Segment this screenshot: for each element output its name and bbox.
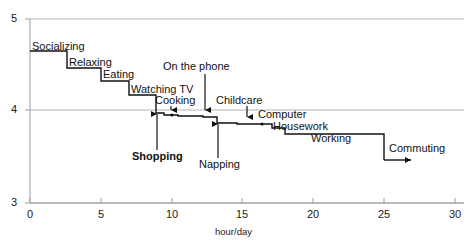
step-label-shopping: Shopping <box>132 150 183 162</box>
step-label-commuting: Commuting <box>389 142 445 154</box>
step-label-socializing: Socializing <box>32 40 85 52</box>
axes <box>25 19 464 203</box>
step-label-napping: Napping <box>199 158 240 170</box>
step-label-on-the-phone: On the phone <box>163 60 230 72</box>
x-tick-20: 20 <box>307 208 319 220</box>
y-tick-3: 3 <box>11 196 17 208</box>
x-tick-30: 30 <box>449 208 461 220</box>
step-label-housework: Housework <box>273 120 328 132</box>
y-tick-4: 4 <box>11 103 17 115</box>
x-tick-5: 5 <box>98 208 104 220</box>
step-label-cooking: Cooking <box>155 94 195 106</box>
x-tick-10: 10 <box>166 208 178 220</box>
step-label-eating: Eating <box>103 68 134 80</box>
x-axis-title: hour/day <box>215 226 252 237</box>
step-label-computer: Computer <box>258 108 306 120</box>
step-label-relaxing: Relaxing <box>69 56 112 68</box>
step-label-childcare: Childcare <box>216 94 262 106</box>
step-chart <box>0 0 476 243</box>
x-tick-25: 25 <box>378 208 390 220</box>
x-tick-15: 15 <box>236 208 248 220</box>
y-tick-5: 5 <box>11 12 17 24</box>
step-label-working: Working <box>311 132 351 144</box>
x-tick-0: 0 <box>27 208 33 220</box>
